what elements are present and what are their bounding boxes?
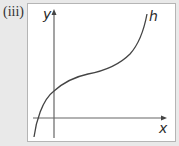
curve-label-h: h xyxy=(149,8,158,24)
figure-page: (iii) y h x xyxy=(0,0,179,146)
graph-plot: y h x xyxy=(0,0,179,146)
x-axis-label: x xyxy=(158,120,168,136)
y-axis-arrow-icon xyxy=(52,9,57,15)
y-axis-label: y xyxy=(42,6,52,22)
